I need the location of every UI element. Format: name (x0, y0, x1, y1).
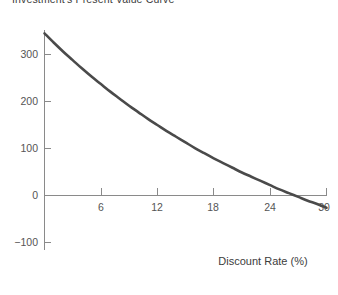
x-axis-tick-labels: 6 12 18 24 30 (98, 201, 330, 213)
chart-screenshot: Investment's Present Value Curve 300 200… (0, 0, 338, 295)
present-value-line-series (45, 33, 327, 207)
y-tick-label-100: 100 (20, 142, 38, 154)
y-axis-tick-labels: 300 200 100 0 −100 (14, 48, 38, 248)
y-tick-label-200: 200 (20, 95, 38, 107)
y-tick-label-neg100: −100 (14, 236, 38, 248)
x-tick-label-12: 12 (151, 201, 163, 213)
y-tick-label-0: 0 (32, 189, 38, 201)
y-axis-ticks (45, 55, 52, 243)
x-tick-label-6: 6 (98, 201, 104, 213)
x-tick-label-24: 24 (264, 201, 276, 213)
present-value-curve-plot: 300 200 100 0 −100 6 12 18 24 30 Discoun… (0, 0, 338, 295)
y-tick-label-300: 300 (20, 48, 38, 60)
x-tick-label-18: 18 (207, 201, 219, 213)
x-axis-title: Discount Rate (%) (218, 255, 307, 267)
